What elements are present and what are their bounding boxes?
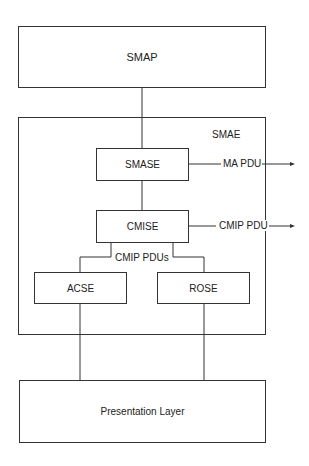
smase-box: SMASE	[96, 148, 189, 181]
cmip-pdu-label: CMIP PDU	[218, 220, 269, 231]
smap-box: SMAP	[18, 26, 266, 88]
cmip-pdus-label: CMIP PDUs	[114, 252, 170, 263]
rose-label: ROSE	[189, 283, 217, 294]
rose-box: ROSE	[157, 272, 250, 304]
ma-pdu-label: MA PDU	[222, 158, 262, 169]
acse-label: ACSE	[67, 283, 94, 294]
acse-box: ACSE	[34, 272, 127, 304]
presentation-layer-box: Presentation Layer	[19, 380, 266, 443]
cmise-label: CMISE	[127, 221, 159, 232]
cmise-box: CMISE	[96, 210, 189, 243]
smase-label: SMASE	[125, 159, 160, 170]
smae-label: SMAE	[212, 129, 240, 140]
smap-label: SMAP	[126, 51, 157, 63]
presentation-layer-label: Presentation Layer	[101, 406, 185, 417]
